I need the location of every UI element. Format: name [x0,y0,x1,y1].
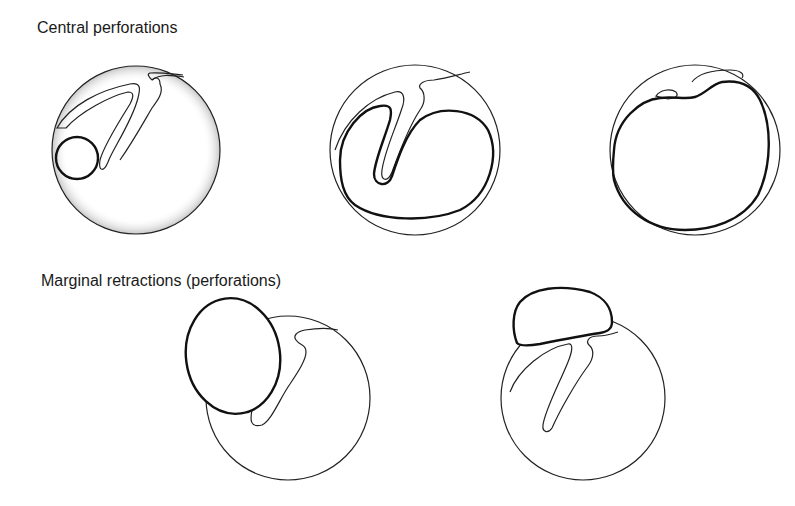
tympanic-membrane-diagram [0,0,795,506]
eardrum-outline [330,65,500,235]
perforation [613,82,769,230]
panel-marginal-1 [178,292,370,480]
panel-central-2 [330,65,500,235]
perforation [340,106,493,219]
panel-marginal-2 [501,288,665,480]
retraction-pocket [514,288,612,345]
malleus-handle-shape [335,72,470,179]
eardrum-outline [52,66,220,234]
malleus-handle-shape [510,332,618,432]
panel-central-3 [610,65,780,235]
retraction-pocket [178,292,287,420]
panel-central-1 [52,66,220,234]
